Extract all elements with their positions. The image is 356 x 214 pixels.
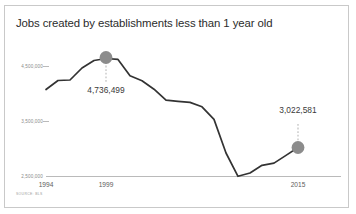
chart-card: Jobs created by establishments less than… bbox=[4, 5, 349, 208]
x-axis-label-1994: 1994 bbox=[26, 181, 66, 188]
x-axis-label-2015: 2015 bbox=[278, 181, 318, 188]
y-axis-label-3500000: 3,500,000 bbox=[7, 119, 43, 124]
series-line-jobs-created bbox=[46, 59, 298, 177]
y-axis-label-4500000: 4,500,000 bbox=[7, 64, 43, 69]
data-label-peak-1999: 4,736,499 bbox=[61, 85, 151, 95]
data-label-latest-2015: 3,022,581 bbox=[253, 105, 343, 115]
source-note: SOURCE: BLS bbox=[16, 192, 43, 196]
marker-latest-2015[interactable] bbox=[292, 141, 305, 154]
x-axis-label-1999: 1999 bbox=[86, 181, 126, 188]
y-axis-label-2500000: 2,500,000 bbox=[7, 174, 43, 179]
marker-peak-1999[interactable] bbox=[100, 51, 113, 64]
